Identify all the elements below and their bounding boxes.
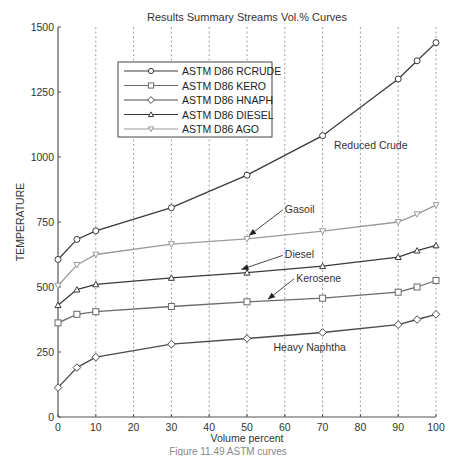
x-tick-label: 70 <box>317 421 329 433</box>
diamond-marker-icon <box>168 340 176 348</box>
diamond-marker-icon <box>92 353 100 361</box>
square-marker-icon <box>433 278 439 284</box>
y-tick-label: 750 <box>36 216 54 228</box>
square-marker-icon <box>148 83 153 88</box>
arrowhead-icon <box>241 264 249 270</box>
legend: ASTM D86 RCRUDEASTM D86 KEROASTM D86 HNA… <box>118 62 281 137</box>
circle-marker-icon <box>168 205 174 211</box>
arrowhead-icon <box>249 229 256 236</box>
diamond-marker-icon <box>413 316 421 324</box>
x-tick-label: 30 <box>166 421 178 433</box>
legend-label: ASTM D86 HNAPH <box>182 94 273 106</box>
x-tick-label: 0 <box>55 421 61 433</box>
y-tick-label: 1000 <box>31 151 55 163</box>
square-marker-icon <box>93 309 99 315</box>
square-marker-icon <box>168 304 174 310</box>
triangle-down-marker-icon <box>55 283 61 288</box>
x-axis-label: Volume percent <box>211 432 284 444</box>
figure-caption: Figure 11.49 ASTM curves <box>169 446 287 456</box>
circle-marker-icon <box>244 172 250 178</box>
diamond-marker-icon <box>432 311 440 319</box>
diamond-marker-icon <box>394 321 402 329</box>
legend-label: ASTM D86 KERO <box>182 80 266 92</box>
square-marker-icon <box>414 284 420 290</box>
circle-marker-icon <box>74 236 80 242</box>
square-marker-icon <box>244 299 250 305</box>
circle-marker-icon <box>414 58 420 64</box>
y-axis-ticks: 0250500750100012501500 <box>31 21 61 423</box>
x-tick-label: 80 <box>355 421 367 433</box>
x-tick-label: 100 <box>427 421 445 433</box>
annotation-label: Kerosene <box>296 272 341 284</box>
curve-annotations: Reduced CrudeGasoilDieselKeroseneHeavy N… <box>241 139 407 353</box>
y-tick-label: 0 <box>48 411 54 423</box>
square-marker-icon <box>320 295 326 301</box>
line-chart: Results Summary Streams Vol.% Curves 010… <box>0 0 457 456</box>
annotation-label: Heavy Naphtha <box>273 341 346 353</box>
y-tick-label: 250 <box>36 346 54 358</box>
annotation-label: Diesel <box>285 248 314 260</box>
legend-label: ASTM D86 DIESEL <box>182 109 274 121</box>
diamond-marker-icon <box>319 329 327 337</box>
y-tick-label: 500 <box>36 281 54 293</box>
triangle-up-marker-icon <box>433 242 439 247</box>
square-marker-icon <box>395 289 401 295</box>
circle-marker-icon <box>148 68 153 73</box>
y-tick-label: 1250 <box>31 86 55 98</box>
legend-label: ASTM D86 RCRUDE <box>182 65 281 77</box>
annotation-label: Reduced Crude <box>334 139 408 151</box>
square-marker-icon <box>74 311 80 317</box>
x-tick-label: 20 <box>128 421 140 433</box>
chart-title: Results Summary Streams Vol.% Curves <box>147 11 347 23</box>
y-tick-label: 1500 <box>31 21 55 33</box>
x-tick-label: 10 <box>90 421 102 433</box>
x-tick-label: 90 <box>392 421 404 433</box>
legend-label: ASTM D86 AGO <box>182 123 259 135</box>
circle-marker-icon <box>433 40 439 46</box>
circle-marker-icon <box>395 76 401 82</box>
square-marker-icon <box>55 320 61 326</box>
annotation-label: Gasoil <box>285 203 315 215</box>
circle-marker-icon <box>93 228 99 234</box>
arrowhead-icon <box>268 293 275 300</box>
diamond-marker-icon <box>243 335 251 343</box>
circle-marker-icon <box>55 256 61 262</box>
y-axis-label: TEMPERATURE <box>14 183 26 262</box>
circle-marker-icon <box>320 133 326 139</box>
